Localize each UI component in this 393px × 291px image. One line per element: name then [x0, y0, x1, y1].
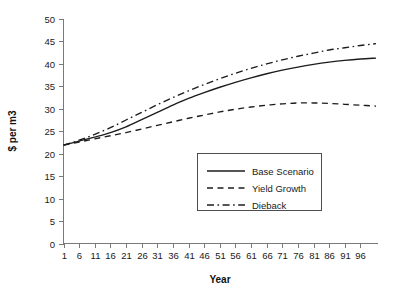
x-tick-label: 6	[77, 250, 82, 261]
y-tick-label: 20	[44, 149, 55, 160]
y-tick-label: 40	[44, 59, 55, 70]
x-tick-label: 76	[293, 250, 304, 261]
x-tick-label: 51	[215, 250, 226, 261]
y-axis-title: $ per m3	[7, 110, 18, 152]
x-tick-label: 61	[246, 250, 257, 261]
x-tick-label: 26	[137, 250, 148, 261]
line-chart: 05101520253035404550 $ per m3 1611162126…	[0, 0, 393, 291]
y-tick-label: 10	[44, 194, 55, 205]
y-tick-label: 35	[44, 81, 55, 92]
chart-legend: Base ScenarioYield GrowthDieback	[198, 154, 322, 211]
x-tick-label: 81	[309, 250, 320, 261]
x-tick-label: 91	[340, 250, 351, 261]
x-tick-label: 21	[121, 250, 132, 261]
y-tick-label: 5	[50, 216, 55, 227]
legend-label-base-scenario: Base Scenario	[252, 166, 314, 177]
chart-background	[0, 0, 393, 291]
y-tick-label: 0	[50, 239, 55, 250]
legend-label-dieback: Dieback	[252, 200, 287, 211]
y-tick-label: 50	[44, 14, 55, 25]
x-axis-title: Year	[209, 274, 230, 285]
x-tick-label: 16	[105, 250, 116, 261]
x-tick-label: 1	[62, 250, 67, 261]
chart-figure: 05101520253035404550 $ per m3 1611162126…	[0, 0, 393, 291]
x-tick-label: 56	[230, 250, 241, 261]
y-tick-label: 25	[44, 126, 55, 137]
y-tick-label: 15	[44, 171, 55, 182]
x-tick-label: 66	[262, 250, 273, 261]
x-tick-label: 46	[199, 250, 210, 261]
y-tick-label: 30	[44, 104, 55, 115]
x-tick-label: 31	[152, 250, 163, 261]
legend-label-yield-growth: Yield Growth	[252, 183, 306, 194]
x-tick-label: 96	[355, 250, 366, 261]
x-tick-label: 36	[168, 250, 179, 261]
y-tick-label: 45	[44, 36, 55, 47]
x-tick-label: 41	[184, 250, 195, 261]
x-tick-label: 86	[324, 250, 335, 261]
x-tick-label: 11	[91, 250, 101, 261]
x-tick-label: 71	[277, 250, 288, 261]
